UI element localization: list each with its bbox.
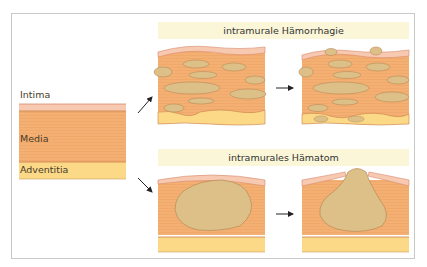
hemorrhage-title: intramurale Hämorrhagie <box>158 22 409 39</box>
arrow-to-hemorrhage <box>138 97 152 113</box>
hematoma-title: intramurales Hämatom <box>158 149 409 166</box>
intima-label: Intima <box>20 89 50 100</box>
vessel-wall-diagram <box>0 0 427 267</box>
hemorrhage-stage-1 <box>154 46 266 125</box>
hematoma-stage-2 <box>302 169 409 253</box>
media-label: Media <box>20 133 49 144</box>
hemorrhage-stage-2 <box>299 47 409 125</box>
adventitia-label: Adventitia <box>20 164 68 175</box>
arrow-to-hematoma <box>138 178 152 192</box>
hematoma-stage-1 <box>158 175 265 252</box>
